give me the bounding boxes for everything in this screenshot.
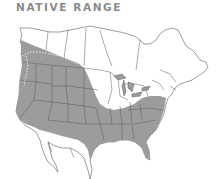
native-range-map bbox=[0, 0, 220, 179]
